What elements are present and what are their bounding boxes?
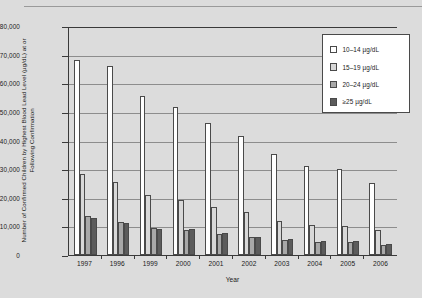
bar-group: [200, 27, 233, 255]
x-axis-title: Year: [68, 276, 397, 283]
y-axis-tick-label: 30,000: [0, 167, 20, 174]
bar-group: [233, 27, 266, 255]
bar: [91, 218, 97, 255]
bar: [321, 241, 327, 255]
chart-page: Number of Confirmed Children by Highest …: [0, 0, 422, 298]
bar-group: [266, 27, 299, 255]
header-divider: [24, 6, 422, 7]
y-axis-tick-label: 40,000: [0, 138, 20, 145]
x-axis-ticks: 1997199619992000200120022003200420052006: [68, 260, 397, 272]
legend-swatch-icon: [330, 63, 337, 70]
y-axis-tick-label: 50,000: [0, 109, 20, 116]
bar: [386, 244, 392, 255]
y-axis-tick-label: 80,000: [0, 23, 20, 30]
y-axis-tick-label: 20,000: [0, 195, 20, 202]
x-axis-group-separator: [101, 255, 102, 259]
bar-group: [69, 27, 102, 255]
legend-item[interactable]: 10–14 µg/dL: [330, 41, 409, 58]
legend-label: ≥25 µg/dL: [342, 98, 371, 105]
bar: [353, 241, 359, 255]
x-axis-tick-label: 1997: [68, 260, 101, 272]
bar: [288, 239, 294, 255]
x-axis-tick-label: 2001: [200, 260, 233, 272]
x-axis-group-separator: [166, 255, 167, 259]
bar-group: [102, 27, 135, 255]
y-axis-title: Number of Confirmed Children by Highest …: [20, 35, 37, 245]
x-axis-tick-label: 2000: [167, 260, 200, 272]
x-axis-tick-label: 2004: [298, 260, 331, 272]
legend-label: 10–14 µg/dL: [342, 46, 379, 53]
x-axis-tick-label: 1999: [134, 260, 167, 272]
bar: [157, 229, 163, 255]
legend-swatch-icon: [330, 81, 337, 88]
bar: [189, 229, 195, 255]
y-axis-tick-label: 10,000: [0, 224, 20, 231]
x-axis-group-separator: [265, 255, 266, 259]
x-axis-group-separator: [134, 255, 135, 259]
x-axis-tick-label: 2003: [265, 260, 298, 272]
legend: 10–14 µg/dL15–19 µg/dL20–24 µg/dL≥25 µg/…: [322, 34, 410, 113]
legend-item[interactable]: 15–19 µg/dL: [330, 58, 409, 75]
legend-swatch-icon: [330, 46, 337, 53]
y-axis-tick-label: 60,000: [0, 81, 20, 88]
legend-label: 15–19 µg/dL: [342, 64, 379, 71]
x-axis-group-separator: [363, 255, 364, 259]
x-axis-group-separator: [330, 255, 331, 259]
bar-group: [167, 27, 200, 255]
legend-swatch-icon: [330, 98, 337, 105]
x-axis-tick-label: 2006: [364, 260, 397, 272]
bar: [255, 237, 261, 255]
legend-label: 20–24 µg/dL: [342, 81, 379, 88]
bar: [222, 233, 228, 255]
y-axis-tick-mark: [62, 256, 68, 257]
bar-group: [135, 27, 168, 255]
x-axis-group-separator: [199, 255, 200, 259]
y-axis-tick-label: 0: [0, 252, 20, 259]
x-axis-group-separator: [232, 255, 233, 259]
y-axis-tick-label: 70,000: [0, 52, 20, 59]
x-axis-group-separator: [298, 255, 299, 259]
bar-chart: Number of Confirmed Children by Highest …: [0, 12, 422, 292]
x-axis-tick-label: 1996: [101, 260, 134, 272]
bar: [124, 223, 130, 255]
legend-item[interactable]: 20–24 µg/dL: [330, 76, 409, 93]
x-axis-tick-label: 2002: [233, 260, 266, 272]
legend-item[interactable]: ≥25 µg/dL: [330, 93, 409, 110]
x-axis-tick-label: 2005: [331, 260, 364, 272]
